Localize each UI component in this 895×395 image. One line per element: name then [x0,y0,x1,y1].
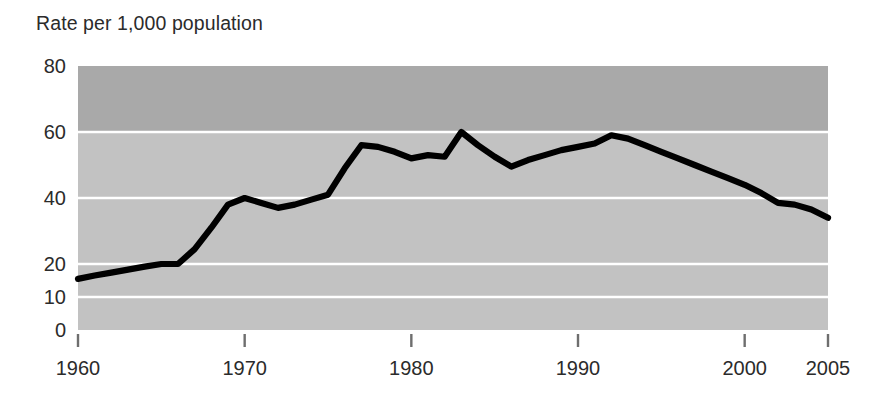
y-axis-label-0: 0 [55,319,66,341]
plot-band-upper [78,66,828,132]
y-axis-label-80: 80 [44,55,66,77]
x-axis-label-2000: 2000 [722,357,767,379]
chart-figure: Rate per 1,000 population 01020406080 19… [0,0,895,395]
x-axis-label-1970: 1970 [222,357,267,379]
plot-area-wrapper: 01020406080 196019701980199020002005 [0,0,895,395]
x-axis-label-1980: 1980 [389,357,434,379]
x-axis-tick-marks [78,334,828,347]
line-chart-svg: 01020406080 196019701980199020002005 [0,0,895,395]
x-axis-labels: 196019701980199020002005 [56,357,851,379]
y-axis-label-60: 60 [44,121,66,143]
x-axis-label-1990: 1990 [556,357,601,379]
plot-band-lower [78,132,828,330]
y-axis-labels: 01020406080 [44,55,66,341]
y-axis-label-20: 20 [44,253,66,275]
x-axis-label-1960: 1960 [56,357,101,379]
y-axis-label-10: 10 [44,286,66,308]
y-axis-label-40: 40 [44,187,66,209]
x-axis-label-2005: 2005 [806,357,851,379]
